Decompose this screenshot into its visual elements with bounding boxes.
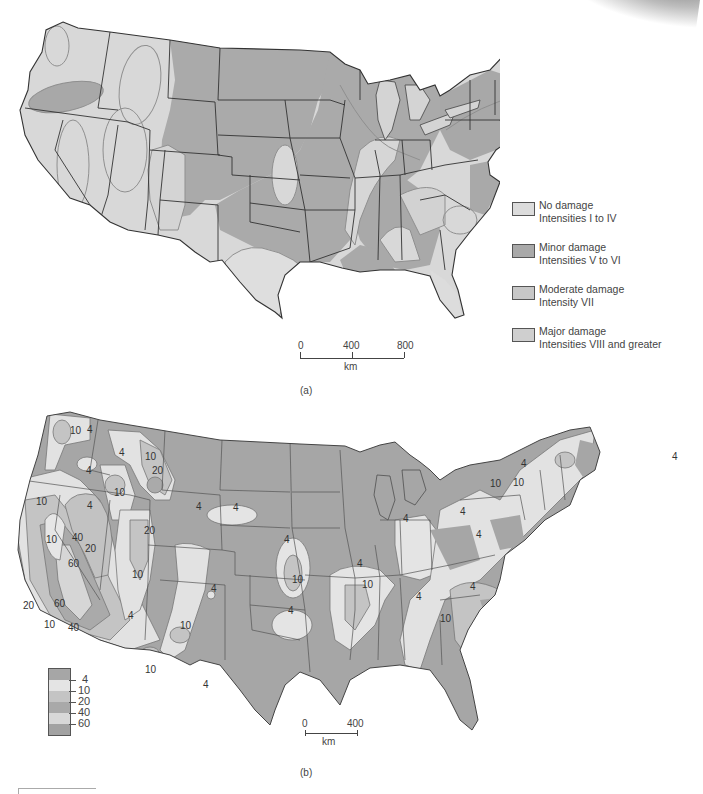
contour-label: 10 xyxy=(70,425,82,436)
caption-a: (a) xyxy=(300,385,312,396)
contour-label: 10 xyxy=(180,620,192,631)
legend-value: 60 xyxy=(78,718,90,729)
contour-label: 4 xyxy=(416,591,422,602)
contour-label: 20 xyxy=(152,465,164,476)
legend-swatch xyxy=(512,328,535,342)
contour-label: 4 xyxy=(128,610,134,621)
legend-swatch xyxy=(512,286,535,300)
legend-swatch xyxy=(48,668,71,680)
contour-label: 10 xyxy=(513,477,525,488)
scale-label: 0 xyxy=(302,718,308,729)
contour-label: 4 xyxy=(119,447,125,458)
legend-swatch xyxy=(48,713,71,724)
contour-label: 4 xyxy=(672,451,678,462)
contour-label: 10 xyxy=(132,569,144,580)
contour-label: 10 xyxy=(46,534,58,545)
contour-label: 4 xyxy=(87,500,93,511)
contour-label: 4 xyxy=(196,501,202,512)
scale-unit: km xyxy=(322,736,335,747)
legend-swatch xyxy=(48,702,71,713)
legend-swatch xyxy=(512,244,535,258)
contour-label: 4 xyxy=(211,583,217,594)
legend-swatch xyxy=(48,724,71,736)
contour-label: 10 xyxy=(362,579,374,590)
contour-label: 10 xyxy=(440,613,452,624)
contour-label: 60 xyxy=(54,598,66,609)
legend-swatch xyxy=(48,691,71,702)
contour-label: 4 xyxy=(288,605,294,616)
contour-label: 20 xyxy=(85,543,97,554)
legend-title: No damage xyxy=(539,199,593,211)
contour-label: 4 xyxy=(203,679,209,690)
contour-label: 4 xyxy=(470,581,476,592)
contour-label: 20 xyxy=(144,525,156,536)
legend-item-minor-damage: Minor damageIntensities V to VI xyxy=(512,242,682,276)
caption-b: (b) xyxy=(300,767,312,778)
contour-label: 4 xyxy=(233,502,239,513)
contour-label: 4 xyxy=(460,506,466,517)
contour-label: 4 xyxy=(284,534,290,545)
scale-label: 400 xyxy=(347,718,364,729)
legend-swatch xyxy=(48,680,71,691)
legend-subtitle: Intensities I to IV xyxy=(539,212,617,224)
legend-item-no-damage: No damageIntensities I to IV xyxy=(512,200,682,234)
scale-label: 400 xyxy=(343,340,360,351)
legend-swatch xyxy=(512,202,535,216)
legend-damage: No damageIntensities I to IV Minor damag… xyxy=(512,200,682,368)
minor-damage-region xyxy=(470,160,500,215)
contour-label: 4 xyxy=(87,424,93,435)
contour-label: 4 xyxy=(86,465,92,476)
contour-label: 4 xyxy=(476,529,482,540)
contour-label: 60 xyxy=(68,558,80,569)
damage-map-a xyxy=(0,0,500,350)
legend-item-moderate-damage: Moderate damageIntensity VII xyxy=(512,284,682,318)
footnote-rule xyxy=(18,788,96,789)
legend-item-major-damage: Major damageIntensities VIII and greater xyxy=(512,326,682,360)
scale-label: 800 xyxy=(397,340,414,351)
contour-label: 10 xyxy=(114,487,126,498)
legend-title: Minor damage xyxy=(539,241,606,253)
legend-subtitle: Intensities V to VI xyxy=(539,254,621,266)
legend-title: Major damage xyxy=(539,325,606,337)
contour-label: 4 xyxy=(403,513,409,524)
scale-label: 0 xyxy=(298,340,304,351)
legend-subtitle: Intensity VII xyxy=(539,296,594,308)
contour-label: 40 xyxy=(72,532,84,543)
scale-bar-a: 0 400 800 km xyxy=(296,340,426,370)
contour-label: 10 xyxy=(36,496,48,507)
contour-label: 10 xyxy=(292,574,304,585)
contour-label: 10 xyxy=(145,664,157,675)
legend-subtitle: Intensities VIII and greater xyxy=(539,338,662,350)
contour-label: 10 xyxy=(490,478,502,489)
scale-bar-b: 0 400 km xyxy=(302,718,392,750)
contour-label: 4 xyxy=(357,558,363,569)
contour-label: 4 xyxy=(521,458,527,469)
acceleration-map-b: 1044410201010410402020601044460201040410… xyxy=(0,400,680,760)
legend-title: Moderate damage xyxy=(539,283,624,295)
scale-unit: km xyxy=(344,361,357,372)
contour-label: 10 xyxy=(145,451,157,462)
contour-label: 10 xyxy=(44,619,56,630)
page-corner-shadow xyxy=(557,0,703,29)
contour-label: 20 xyxy=(23,600,35,611)
contour-label: 40 xyxy=(68,622,80,633)
